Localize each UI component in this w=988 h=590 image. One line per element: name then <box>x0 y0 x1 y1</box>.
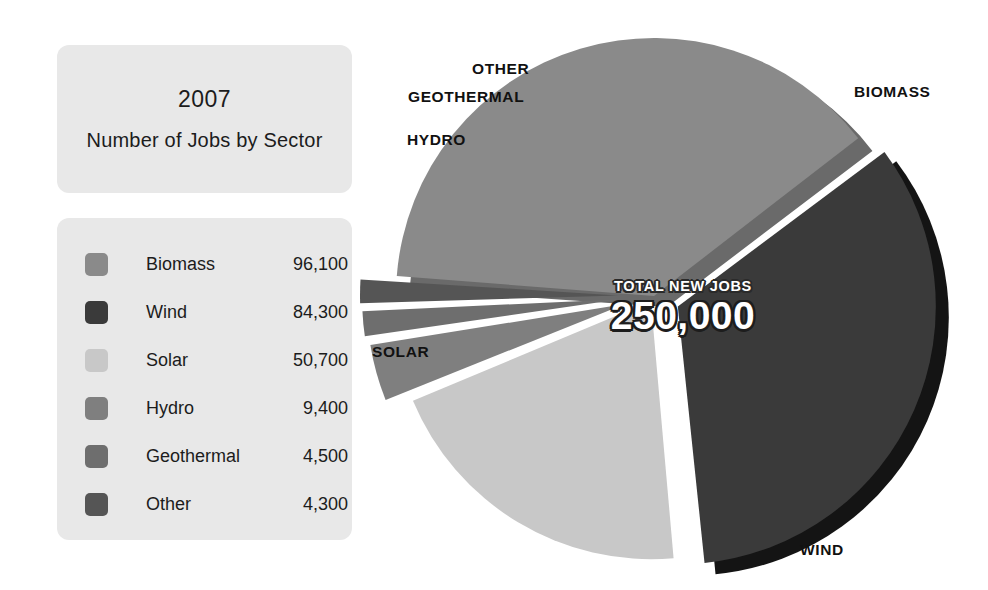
legend-item-wind[interactable]: Wind 84,300 <box>57 288 352 336</box>
pie-label-hydro: HYDRO <box>407 131 466 149</box>
pie-label-other: OTHER <box>472 60 529 78</box>
legend-value-hydro: 9,400 <box>270 398 348 419</box>
pie-label-biomass: BIOMASS <box>854 83 931 101</box>
legend-swatch-hydro <box>85 397 108 420</box>
pie-label-wind: WIND <box>800 541 844 559</box>
legend-value-solar: 50,700 <box>270 350 348 371</box>
legend-label-other: Other <box>146 494 270 515</box>
title-year: 2007 <box>178 86 231 113</box>
pie-label-solar: SOLAR <box>372 343 429 361</box>
legend-label-geothermal: Geothermal <box>146 446 270 467</box>
legend-item-solar[interactable]: Solar 50,700 <box>57 336 352 384</box>
title-panel: 2007 Number of Jobs by Sector <box>57 45 352 193</box>
legend-value-geothermal: 4,500 <box>270 446 348 467</box>
legend-value-wind: 84,300 <box>270 302 348 323</box>
legend-value-biomass: 96,100 <box>270 254 348 275</box>
legend-label-hydro: Hydro <box>146 398 270 419</box>
legend-label-biomass: Biomass <box>146 254 270 275</box>
legend-panel: Biomass 96,100 Wind 84,300 Solar 50,700 … <box>57 218 352 540</box>
legend-label-solar: Solar <box>146 350 270 371</box>
pie-label-geothermal: GEOTHERMAL <box>408 88 524 106</box>
legend-swatch-wind <box>85 301 108 324</box>
legend-swatch-solar <box>85 349 108 372</box>
legend-label-wind: Wind <box>146 302 270 323</box>
legend-swatch-biomass <box>85 253 108 276</box>
pie-chart: BIOMASS WIND SOLAR HYDRO GEOTHERMAL OTHE… <box>360 0 988 590</box>
legend-item-biomass[interactable]: Biomass 96,100 <box>57 240 352 288</box>
legend-swatch-geothermal <box>85 445 108 468</box>
legend-item-hydro[interactable]: Hydro 9,400 <box>57 384 352 432</box>
legend-swatch-other <box>85 493 108 516</box>
legend-list: Biomass 96,100 Wind 84,300 Solar 50,700 … <box>57 240 352 528</box>
legend-item-geothermal[interactable]: Geothermal 4,500 <box>57 432 352 480</box>
legend-value-other: 4,300 <box>270 494 348 515</box>
legend-item-other[interactable]: Other 4,300 <box>57 480 352 528</box>
title-subtitle: Number of Jobs by Sector <box>86 129 322 152</box>
